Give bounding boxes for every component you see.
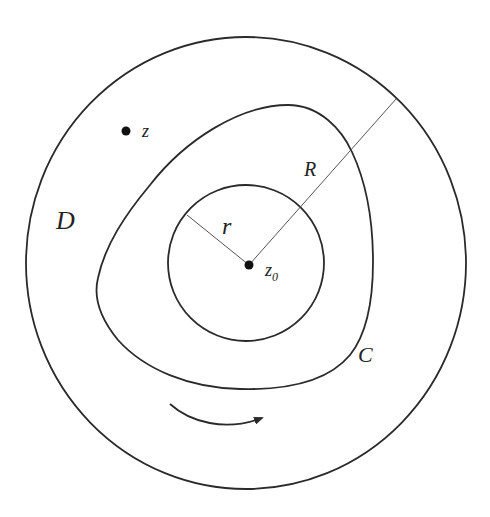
label-z: z bbox=[141, 121, 149, 141]
orientation-arrow-icon bbox=[170, 404, 262, 425]
center-point-z0 bbox=[245, 261, 254, 270]
label-R: R bbox=[303, 158, 316, 180]
contour-diagram: z R D r z0 C bbox=[0, 0, 490, 517]
radius-R-line bbox=[249, 99, 396, 265]
label-z0-base: z bbox=[264, 260, 272, 280]
radius-r-line bbox=[187, 215, 249, 265]
label-z0: z0 bbox=[264, 260, 278, 284]
point-z bbox=[122, 127, 131, 136]
label-r: r bbox=[222, 213, 232, 239]
label-C: C bbox=[358, 342, 373, 367]
label-D: D bbox=[55, 206, 75, 235]
label-z0-subscript: 0 bbox=[272, 270, 278, 284]
contour-c bbox=[96, 105, 373, 389]
